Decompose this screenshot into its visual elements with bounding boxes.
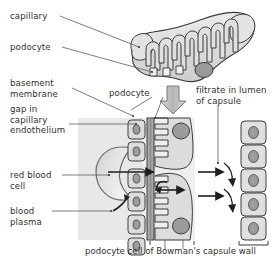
label-podocyte-mid: podocyte <box>109 88 150 99</box>
podocyte-nucleus-lower <box>173 218 190 234</box>
podocyte-nucleus-top <box>195 63 213 78</box>
caption-bracket <box>150 241 194 245</box>
lumen-flow-arrows <box>224 163 232 209</box>
label-podocyte-top: podocyte <box>10 42 51 53</box>
leader-dot-podocyte-top <box>151 71 153 73</box>
figure-caption: podocyte cell of Bowman's capsule wall <box>85 246 256 257</box>
capsule-wall-cell-column <box>239 121 268 245</box>
label-blood-plasma: blood plasma <box>10 206 42 227</box>
flow-down-arrow-icon <box>160 86 186 114</box>
podocyte-nucleus-upper <box>173 123 190 139</box>
label-filtrate-in-lumen: filtrate in lumen of capsule <box>196 85 267 106</box>
capsule-wall-bracket <box>239 241 268 245</box>
lumen-flow-arrowheads <box>228 178 236 213</box>
label-capillary: capillary <box>10 11 47 22</box>
label-basement-membrane: basement membrane <box>10 78 58 99</box>
kidney-filtration-diagram: capillary podocyte basement membrane gap… <box>0 0 279 263</box>
leader-dot-capillary <box>138 46 140 48</box>
label-red-blood-cell: red blood cell <box>10 170 52 191</box>
label-gap-in-capillary-endothelium: gap in capillary endothelium <box>10 104 65 136</box>
